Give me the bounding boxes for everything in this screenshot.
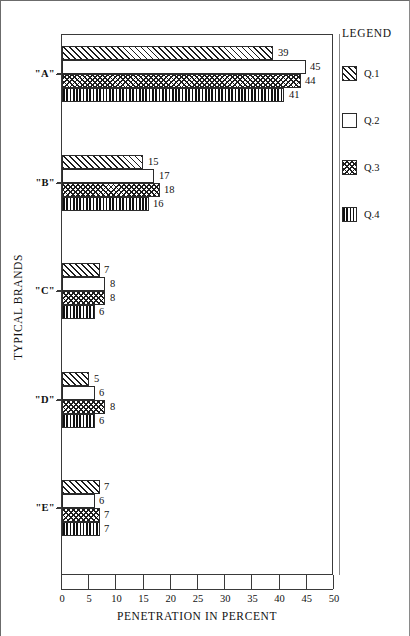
category-leader-D [57,399,62,400]
bar-A-Q1 [62,46,273,60]
x-tick-label-40: 40 [274,593,285,604]
bar-value-C-Q1: 7 [104,263,109,277]
bar-value-C-Q2: 8 [110,277,115,291]
bar-A-Q2 [62,60,306,74]
category-tick-A [56,74,62,75]
x-tick-label-20: 20 [166,593,177,604]
legend-label-q4: Q.4 [364,209,379,220]
x-tick-label-30: 30 [220,593,231,604]
x-tick-35 [251,575,252,589]
bar-A-Q3 [62,74,301,88]
legend-label-q2: Q.2 [364,115,379,126]
x-tick-label-15: 15 [138,593,149,604]
legend-item-q2[interactable]: Q.2 [342,113,379,128]
x-tick-5 [88,575,89,589]
bar-value-D-Q4: 6 [99,414,104,428]
bar-value-D-Q1: 5 [94,372,99,386]
category-tick-D [56,400,62,401]
figure-container: 39 45 44 41 15 17 18 16 7 8 8 6 5 6 [0,0,410,636]
bar-D-Q2 [62,386,95,400]
category-tick-C [56,291,62,292]
x-axis-line [61,589,333,590]
bar-E-Q4 [62,522,100,536]
bar-D-Q3 [62,400,105,414]
x-tick-15 [143,575,144,589]
x-tick-25 [197,575,198,589]
legend-swatch-q1-icon [342,66,357,81]
bar-C-Q1 [62,263,100,277]
bar-value-C-Q3: 8 [110,291,115,305]
x-tick-30 [224,575,225,589]
bar-value-B-Q4: 16 [153,197,164,211]
bar-value-E-Q3: 7 [104,508,109,522]
bar-value-B-Q2: 17 [159,169,170,183]
legend-label-q1: Q.1 [364,68,379,79]
category-label-D: "D" [21,394,55,405]
x-tick-20 [170,575,171,589]
bar-E-Q2 [62,494,95,508]
bar-value-E-Q4: 7 [104,522,109,536]
category-tick-B [56,183,62,184]
x-tick-label-35: 35 [247,593,258,604]
y-axis-title: TYPICAL BRANDS [12,227,24,387]
bar-A-Q4 [62,88,284,102]
category-label-C: "C" [21,285,55,296]
category-leader-C [57,290,62,291]
category-leader-A [57,73,62,74]
x-tick-label-5: 5 [87,593,92,604]
bar-E-Q3 [62,508,100,522]
bar-B-Q1 [62,155,143,169]
bar-D-Q1 [62,372,89,386]
bar-B-Q4 [62,197,149,211]
bar-value-A-Q4: 41 [289,88,300,102]
bar-C-Q2 [62,277,105,291]
category-leader-B [57,182,62,183]
bar-value-B-Q3: 18 [164,183,175,197]
x-tick-label-0: 0 [59,593,64,604]
bar-E-Q1 [62,480,100,494]
x-tick-50 [333,575,334,589]
x-tick-label-25: 25 [193,593,204,604]
category-leader-E [57,507,62,508]
legend-item-q4[interactable]: Q.4 [342,207,379,222]
x-tick-0 [61,575,62,589]
x-axis-title: PENETRATION IN PERCENT [61,610,333,622]
category-label-B: "B" [21,177,55,188]
category-label-A: "A" [21,68,55,79]
legend-item-q1[interactable]: Q.1 [342,66,379,81]
bar-value-A-Q1: 39 [278,46,289,60]
bar-value-C-Q4: 6 [99,305,104,319]
bar-D-Q4 [62,414,95,428]
bar-value-A-Q2: 45 [310,60,321,74]
legend-divider [339,34,340,575]
legend: LEGEND Q.1 Q.2 Q.3 Q.4 [342,27,408,39]
legend-swatch-q4-icon [342,207,357,222]
legend-swatch-q2-icon [342,113,357,128]
bar-value-A-Q3: 44 [305,74,316,88]
plot-area: 39 45 44 41 15 17 18 16 7 8 8 6 5 6 [61,34,333,575]
x-tick-45 [306,575,307,589]
x-tick-label-45: 45 [302,593,313,604]
bar-B-Q2 [62,169,154,183]
x-tick-label-10: 10 [111,593,122,604]
x-tick-40 [279,575,280,589]
bar-value-E-Q1: 7 [104,480,109,494]
category-label-E: "E" [21,502,55,513]
bar-B-Q3 [62,183,160,197]
category-tick-E [56,508,62,509]
x-tick-10 [115,575,116,589]
bar-value-D-Q2: 6 [99,386,104,400]
bar-value-D-Q3: 8 [110,400,115,414]
bar-value-E-Q2: 6 [99,494,104,508]
bar-C-Q3 [62,291,105,305]
legend-title: LEGEND [342,27,408,39]
x-tick-label-50: 50 [329,593,340,604]
legend-label-q3: Q.3 [364,162,379,173]
bar-value-B-Q1: 15 [148,155,159,169]
legend-item-q3[interactable]: Q.3 [342,160,379,175]
legend-swatch-q3-icon [342,160,357,175]
bar-C-Q4 [62,305,95,319]
